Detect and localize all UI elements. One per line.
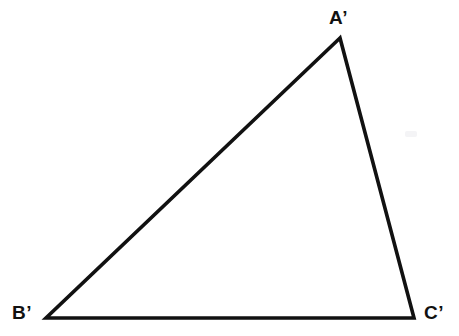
triangle-outline: [46, 38, 414, 318]
vertex-label-b-prime: B’: [12, 303, 32, 322]
geometry-figure-canvas: A’ B’ C’: [0, 0, 459, 336]
vertex-label-a-prime: A’: [329, 8, 348, 27]
triangle-shape: [0, 0, 459, 336]
paper-artifact-smudge: [405, 131, 417, 137]
vertex-label-c-prime: C’: [424, 303, 444, 322]
